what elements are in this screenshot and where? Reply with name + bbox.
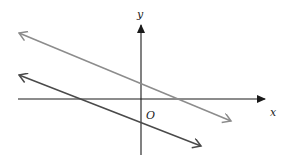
coordinate-diagram: y x O xyxy=(0,0,288,161)
origin-label: O xyxy=(146,109,155,122)
upper-line xyxy=(19,33,231,121)
x-axis-label: x xyxy=(270,106,277,119)
y-axis-label: y xyxy=(136,8,144,21)
lower-line xyxy=(19,75,201,146)
